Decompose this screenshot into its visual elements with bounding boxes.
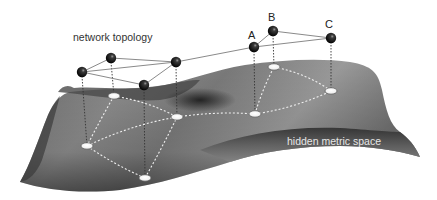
- topology-edge-n3-n4: [144, 62, 176, 85]
- surface-valley-shadow: [164, 88, 236, 112]
- topology-edge-n1-n4: [82, 62, 176, 72]
- topology-node-c: [326, 33, 336, 43]
- topology-edge-b-c: [273, 31, 331, 38]
- metric-node-n2: [108, 93, 120, 99]
- topology-edge-n2-n4: [111, 58, 176, 62]
- surface-shading: [20, 60, 420, 192]
- topology-edge-n4-a: [176, 47, 254, 62]
- topology-node-b: [268, 26, 278, 36]
- topology-edge-a-c: [254, 38, 331, 47]
- node-a-label: A: [248, 29, 256, 41]
- metric-node-n3: [139, 175, 151, 181]
- node-b-label: B: [268, 11, 275, 23]
- metric-node-a: [249, 111, 261, 117]
- metric-node-n4: [171, 114, 183, 120]
- topology-node-n2: [106, 53, 116, 63]
- metric-node-n1: [81, 143, 93, 149]
- topology-node-a: [249, 42, 259, 52]
- metric-surface: [20, 60, 420, 192]
- topology-node-n4: [171, 57, 181, 67]
- network-geometry-diagram: network topology hidden metric space A B…: [0, 0, 437, 200]
- hidden-metric-space-label: hidden metric space: [287, 135, 381, 147]
- node-c-label: C: [325, 18, 333, 30]
- topology-node-n1: [77, 67, 87, 77]
- network-topology-label: network topology: [73, 31, 153, 43]
- metric-node-b: [268, 64, 280, 70]
- metric-node-c: [325, 88, 337, 94]
- topology-node-n3: [139, 80, 149, 90]
